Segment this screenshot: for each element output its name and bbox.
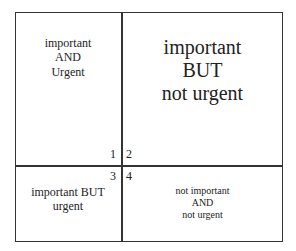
quadrant-1-line: Urgent <box>15 65 121 79</box>
quadrant-1-number: 1 <box>110 147 116 162</box>
quadrant-1-line: important <box>15 36 121 50</box>
quadrant-4-line: not important <box>122 185 283 197</box>
quadrant-2-line: not urgent <box>122 82 283 105</box>
quadrant-4-number: 4 <box>126 169 132 184</box>
quadrant-4-label: not important AND not urgent <box>122 185 283 221</box>
quadrant-2-line: important <box>122 36 283 59</box>
quadrant-2-line: BUT <box>122 59 283 82</box>
quadrant-2-label: important BUT not urgent <box>122 36 283 105</box>
quadrant-1-line: AND <box>15 50 121 64</box>
quadrant-4-line: not urgent <box>122 209 283 221</box>
quadrant-2-number: 2 <box>126 147 132 162</box>
quadrant-3-line: urgent <box>15 199 121 213</box>
horizontal-divider <box>15 165 283 167</box>
quadrant-1-label: important AND Urgent <box>15 36 121 79</box>
quadrant-3-number: 3 <box>110 169 116 184</box>
quadrant-3-label: important BUT urgent <box>15 185 121 214</box>
quadrant-3-line: important BUT <box>15 185 121 199</box>
quadrant-4-line: AND <box>122 197 283 209</box>
